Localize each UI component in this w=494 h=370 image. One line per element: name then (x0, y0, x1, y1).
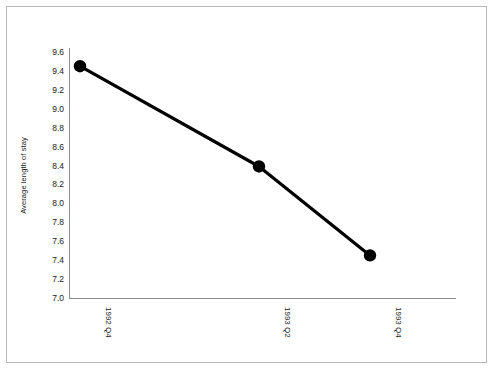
data-point-marker (364, 249, 376, 261)
x-axis-tick-label: 1992 Q4 (102, 307, 114, 359)
line-chart: Average length of stay 7.07.27.47.67.88.… (0, 0, 494, 370)
x-axis-tick-label: 1993 Q4 (392, 307, 404, 359)
x-axis-tick-label-text: 1993 Q4 (394, 307, 403, 338)
series-markers (74, 60, 376, 262)
x-axis-tick-label-text: 1993 Q2 (283, 307, 292, 338)
data-point-marker (74, 60, 86, 72)
chart-page: Average length of stay 7.07.27.47.67.88.… (0, 0, 494, 370)
data-point-marker (253, 160, 265, 172)
series-line (80, 66, 370, 255)
x-axis-tick-label-text: 1992 Q4 (104, 307, 113, 338)
x-axis-tick-label: 1993 Q2 (281, 307, 293, 359)
plot-series-group (0, 0, 494, 370)
